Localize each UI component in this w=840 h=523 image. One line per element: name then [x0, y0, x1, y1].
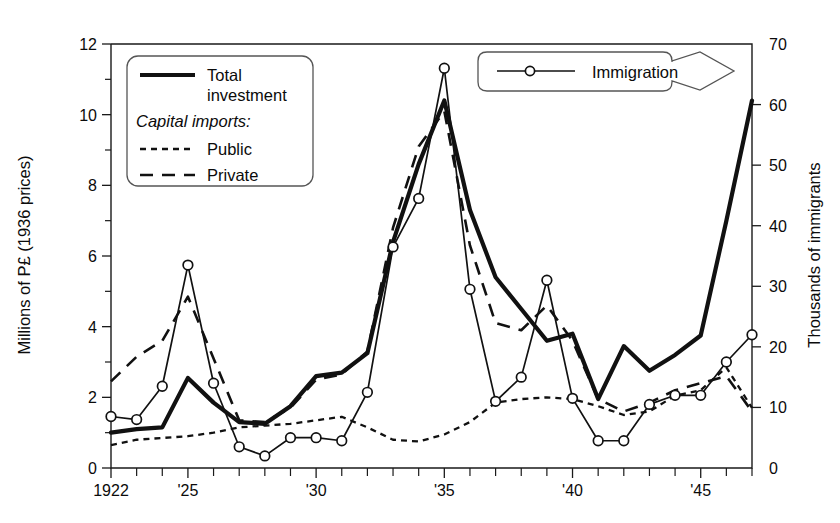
immigration-data-point	[157, 381, 167, 391]
immigration-data-point	[234, 442, 244, 452]
right-axis-tick-label: 40	[769, 218, 787, 235]
right-axis-tick-label: 10	[769, 399, 787, 416]
left-axis-tick-label: 4	[88, 319, 97, 336]
immigration-data-point	[183, 260, 193, 270]
immigration-data-point	[414, 194, 424, 204]
x-axis-tick-label: '30	[306, 482, 327, 499]
right-axis-tick-label: 0	[769, 460, 778, 477]
immigration-data-point	[491, 397, 501, 407]
right-axis-tick-label: 60	[769, 97, 787, 114]
left-axis-tick-label: 6	[88, 248, 97, 265]
immigration-data-point	[747, 330, 757, 340]
right-axis-tick-label: 20	[769, 339, 787, 356]
immigration-data-point	[337, 436, 347, 446]
x-axis-tick-label: '25	[177, 482, 198, 499]
legend-label-investment: investment	[207, 86, 287, 104]
x-axis-tick-label: 1922	[93, 482, 129, 499]
right-axis-tick-label: 50	[769, 157, 787, 174]
immigration-data-point	[465, 285, 475, 295]
immigration-data-point	[619, 436, 629, 446]
immigration-data-point	[106, 412, 116, 422]
legend-label-public: Public	[207, 140, 252, 158]
immigration-data-point	[209, 378, 219, 388]
immigration-data-point	[260, 451, 270, 461]
left-axis-tick-label: 12	[79, 36, 97, 53]
immigration-data-point	[388, 242, 398, 252]
left-axis-tick-label: 8	[88, 177, 97, 194]
immigration-callout: Immigration	[478, 52, 734, 91]
legend-label-private: Private	[207, 166, 258, 184]
immigration-data-point	[542, 275, 552, 285]
right-axis-tick-label: 30	[769, 278, 787, 295]
chart-legend: Total investment Capital imports: Public…	[127, 56, 313, 186]
investment-immigration-line-chart: 024681012 010203040506070 1922'25'30'35'…	[0, 0, 840, 523]
left-axis-tick-label: 2	[88, 389, 97, 406]
x-axis-tick-label: '35	[434, 482, 455, 499]
immigration-data-point	[286, 433, 296, 443]
immigration-data-point	[440, 63, 450, 73]
y-axis-label: Millions of P£ (1936 prices)	[15, 156, 33, 355]
immigration-data-point	[516, 372, 526, 382]
legend-label-total: Total	[207, 66, 242, 84]
immigration-data-point	[593, 436, 603, 446]
immigration-data-point	[132, 415, 142, 425]
left-axis-tick-label: 10	[79, 107, 97, 124]
immigration-data-point	[670, 391, 680, 401]
x-axis-tick-label: '45	[690, 482, 711, 499]
y2-axis-label: Thousands of immigrants	[805, 162, 823, 347]
immigration-data-point	[568, 394, 578, 404]
legend-label-capital-imports: Capital imports:	[136, 112, 251, 130]
immigration-data-point	[645, 400, 655, 410]
callout-label: Immigration	[592, 63, 678, 81]
left-axis-tick-label: 0	[88, 460, 97, 477]
right-axis-tick-label: 70	[769, 36, 787, 53]
figure-caption	[80, 510, 780, 523]
callout-swatch-marker	[525, 66, 534, 75]
x-axis-tick-label: '40	[562, 482, 583, 499]
chart-figure: 024681012 010203040506070 1922'25'30'35'…	[0, 0, 840, 523]
immigration-data-point	[696, 391, 706, 401]
immigration-data-point	[363, 387, 373, 397]
immigration-data-point	[722, 357, 732, 367]
immigration-data-point	[311, 433, 321, 443]
